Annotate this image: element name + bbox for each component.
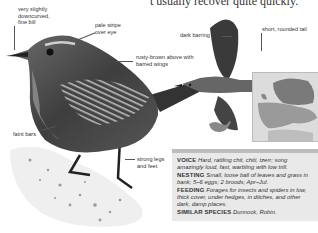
similar-species-label: SIMILAR SPECIES [177,209,231,215]
leader-upperparts [115,61,133,62]
voice-label: VOICE [177,157,196,163]
leader-tail [261,33,262,51]
feeding-label: FEEDING [177,187,205,193]
label-tail: short, rounded tail [262,26,312,33]
similar-species-section: SIMILAR SPECIES Dunnock, Robin. [177,209,313,216]
nesting-label: NESTING [177,172,205,178]
wren-silhouette-icon [207,118,233,136]
label-eye-stripe: pale stripe over eye [95,22,131,35]
label-flanks: faint bars [13,131,43,138]
voice-section: VOICE Hard, rattling chit, chiti, tzerr;… [177,157,313,172]
label-bill: very slightly downcurved, fine bill [18,6,58,26]
nesting-section: NESTING Small, loose ball of leaves and … [177,172,313,187]
feeding-section: FEEDING Forages for insects and spiders … [177,187,313,209]
europe-range-map-icon [252,72,318,142]
leader-legs [125,159,135,160]
label-upperparts: rusty-brown above with barred wings [136,54,194,67]
label-flight-barring: dark barring [180,32,222,39]
similar-species-text: Dunnock, Robin. [233,209,277,215]
leader-bill [14,26,15,50]
leader-barring [222,36,232,37]
species-info-box: VOICE Hard, rattling chit, chiti, tzerr;… [172,149,318,221]
label-legs: strong legs and feet [137,156,167,169]
